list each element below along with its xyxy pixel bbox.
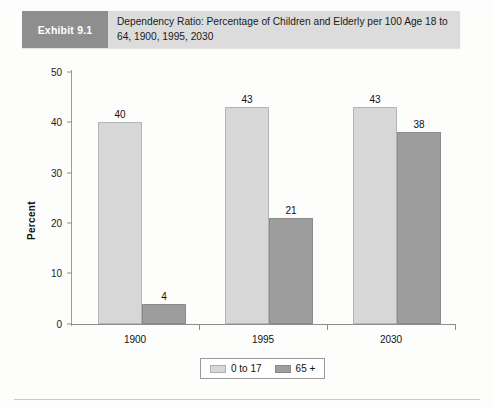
bar-1900-65plus[interactable]: 4	[142, 304, 186, 324]
y-tick-label-0: 0	[56, 319, 67, 330]
bar-2030-0to17[interactable]: 43	[353, 107, 397, 324]
exhibit-title: Dependency Ratio: Percentage of Children…	[117, 15, 452, 43]
exhibit-title-container: Dependency Ratio: Percentage of Children…	[108, 11, 460, 48]
plot-region: 0 10 20 30 40 50 40 4	[72, 72, 455, 324]
x-tick-sep-3	[455, 324, 456, 330]
legend-swatch-65plus-icon	[275, 365, 291, 373]
y-tick-20: 20	[51, 217, 72, 228]
x-axis-label-2030: 2030	[380, 334, 402, 345]
legend-label-65plus: 65 +	[296, 363, 316, 374]
exhibit-header: Exhibit 9.1 Dependency Ratio: Percentage…	[22, 11, 460, 48]
bar-value-1995-0to17: 43	[241, 94, 252, 105]
y-tick-label-30: 30	[51, 167, 67, 178]
y-tick-40: 40	[51, 117, 72, 128]
y-tick-30: 30	[51, 167, 72, 178]
bar-2030-65plus[interactable]: 38	[397, 132, 441, 324]
chart-legend: 0 to 17 65 +	[200, 358, 325, 379]
y-tick-label-20: 20	[51, 217, 67, 228]
bar-1995-65plus[interactable]: 21	[269, 218, 313, 324]
bar-value-1995-65plus: 21	[285, 205, 296, 216]
y-axis-title: Percent	[26, 201, 37, 240]
x-axis-line	[71, 324, 456, 325]
legend-label-0to17: 0 to 17	[231, 363, 262, 374]
bar-value-1900-0to17: 40	[114, 109, 125, 120]
bar-group-2030: 43 38	[327, 72, 455, 324]
bar-value-2030-65plus: 38	[413, 119, 424, 130]
bar-1995-0to17[interactable]: 43	[225, 107, 269, 324]
x-axis-label-1900: 1900	[124, 334, 146, 345]
bar-group-1995: 43 21	[199, 72, 327, 324]
legend-swatch-0to17-icon	[210, 365, 226, 373]
x-tick-sep-2	[327, 324, 328, 330]
page-bottom-rule	[14, 399, 480, 400]
legend-item-65plus[interactable]: 65 +	[275, 363, 316, 374]
bar-1900-0to17[interactable]: 40	[98, 122, 142, 324]
scan-top-band	[0, 0, 493, 9]
y-tick-0: 0	[56, 319, 72, 330]
bar-group-1900: 40 4	[72, 72, 199, 324]
y-tick-10: 10	[51, 268, 72, 279]
y-tick-50: 50	[51, 67, 72, 78]
x-tick-sep-1	[199, 324, 200, 330]
bar-value-1900-65plus: 4	[161, 291, 167, 302]
y-tick-label-10: 10	[51, 268, 67, 279]
bar-value-2030-0to17: 43	[369, 94, 380, 105]
y-tick-label-40: 40	[51, 117, 67, 128]
legend-item-0to17[interactable]: 0 to 17	[210, 363, 262, 374]
exhibit-tag: Exhibit 9.1	[22, 11, 108, 48]
x-axis-label-1995: 1995	[252, 334, 274, 345]
chart-area: Percent 0 10 20 30 40 50 4	[0, 55, 493, 400]
y-tick-label-50: 50	[51, 67, 67, 78]
